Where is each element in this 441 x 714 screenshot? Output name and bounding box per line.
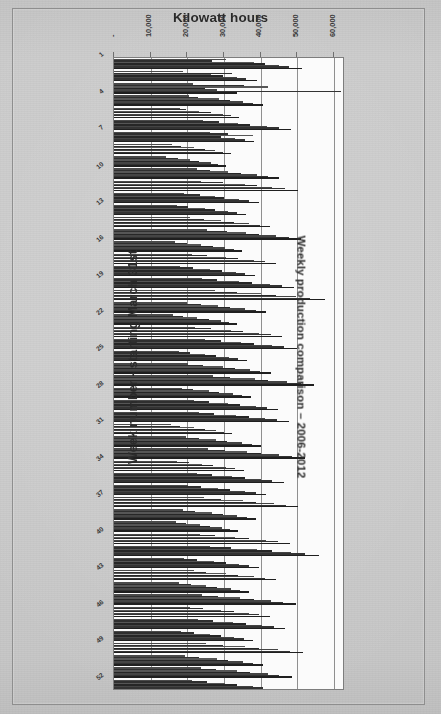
week-group: [114, 143, 343, 155]
week-group: [114, 180, 343, 192]
bar: [114, 141, 254, 142]
week-group: [114, 448, 343, 460]
week-group: [114, 314, 343, 326]
week-group: [114, 95, 343, 107]
week-group: [114, 228, 343, 240]
week-group: [114, 472, 343, 484]
week-group: [114, 375, 343, 387]
week-group: [114, 654, 343, 666]
bar: [114, 80, 257, 81]
week-group: [114, 435, 343, 447]
bar: [114, 214, 246, 215]
week-group: [114, 642, 343, 654]
bar: [114, 494, 266, 495]
week-group: [114, 241, 343, 253]
week-group: [114, 155, 343, 167]
bar: [114, 664, 263, 665]
bar: [114, 92, 237, 93]
week-group: [114, 338, 343, 350]
bar: [114, 689, 274, 690]
bar: [114, 518, 256, 519]
bar: [114, 640, 253, 641]
bar: [114, 652, 303, 653]
x-tick-label: 40,000: [254, 11, 263, 37]
bar: [114, 603, 296, 604]
week-group: [114, 204, 343, 216]
week-group: [114, 82, 343, 94]
week-group: [114, 107, 343, 119]
week-group: [114, 618, 343, 630]
bar: [114, 567, 259, 568]
plot-area: [113, 57, 344, 690]
week-group: [114, 496, 343, 508]
week-group: [114, 606, 343, 618]
bar: [114, 421, 289, 422]
bar: [114, 202, 259, 203]
bar: [114, 543, 290, 544]
week-group: [114, 630, 343, 642]
bar: [114, 616, 270, 617]
week-group: [114, 679, 343, 690]
bar: [114, 68, 302, 69]
bar: [114, 287, 294, 288]
week-group: [114, 265, 343, 277]
week-group: [114, 521, 343, 533]
bar: [114, 628, 285, 629]
bar: [114, 177, 279, 178]
bar: [114, 555, 319, 556]
bar: [114, 482, 284, 483]
bar: [114, 530, 238, 531]
x-tick-label: -: [108, 11, 117, 37]
week-group: [114, 533, 343, 545]
y-axis-title: Week number - starting March 31st: [126, 250, 140, 464]
week-group: [114, 326, 343, 338]
x-tick-label: 50,000: [291, 11, 300, 37]
x-tick-label: 60,000: [328, 11, 337, 37]
bar: [114, 238, 301, 239]
week-group: [114, 594, 343, 606]
bar: [114, 299, 325, 300]
week-group: [114, 667, 343, 679]
bar: [114, 129, 291, 130]
bar: [114, 117, 239, 118]
bar: [114, 104, 263, 105]
week-group: [114, 119, 343, 131]
week-group: [114, 460, 343, 472]
week-group: [114, 301, 343, 313]
x-tick-label: 10,000: [144, 11, 153, 37]
bar: [114, 348, 297, 349]
week-group: [114, 168, 343, 180]
x-tick-label: 20,000: [181, 11, 190, 37]
bar: [114, 384, 314, 385]
week-group: [114, 423, 343, 435]
bar: [114, 457, 305, 458]
bar: [114, 190, 298, 191]
bar: [114, 676, 292, 677]
right-side-chart-title: Weekly production comparison – 2006-2012: [296, 236, 308, 479]
bar: [114, 165, 226, 166]
week-group: [114, 289, 343, 301]
week-group: [114, 131, 343, 143]
week-group: [114, 581, 343, 593]
week-group: [114, 508, 343, 520]
week-group: [114, 411, 343, 423]
week-group: [114, 277, 343, 289]
week-group: [114, 569, 343, 581]
week-group: [114, 557, 343, 569]
x-tick-label: 30,000: [218, 11, 227, 37]
week-group: [114, 70, 343, 82]
bar: [114, 591, 249, 592]
week-group: [114, 362, 343, 374]
week-group: [114, 545, 343, 557]
week-group: [114, 484, 343, 496]
week-group: [114, 192, 343, 204]
bar: [114, 506, 298, 507]
week-group: [114, 399, 343, 411]
week-group: [114, 216, 343, 228]
bar: [114, 470, 244, 471]
bar: [114, 226, 270, 227]
bar: [114, 153, 231, 154]
week-group: [114, 387, 343, 399]
bar: [114, 579, 276, 580]
week-group: [114, 253, 343, 265]
